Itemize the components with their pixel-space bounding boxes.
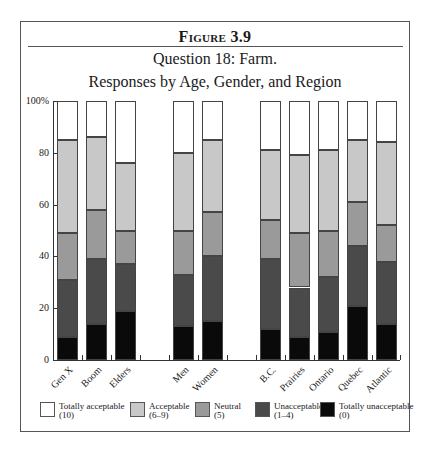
x-tick <box>314 355 315 360</box>
bar-segment <box>260 259 281 329</box>
bar-segment <box>376 101 397 142</box>
bar-segment <box>260 329 281 360</box>
legend-swatch <box>320 402 335 417</box>
bar-segment <box>57 101 78 140</box>
bar-segment <box>173 326 194 360</box>
x-tick <box>53 355 54 360</box>
bar-segment <box>202 101 223 140</box>
x-tick <box>343 355 344 360</box>
bar-segment <box>57 233 78 280</box>
legend-item: Acceptable(6–9) <box>130 402 189 420</box>
bar-b-c <box>260 101 281 360</box>
bar-segment <box>86 137 107 210</box>
legend-swatch <box>40 402 55 417</box>
y-axis <box>53 101 54 360</box>
bar-segment <box>115 163 136 230</box>
bar-segment <box>115 311 136 360</box>
x-tick <box>372 355 373 360</box>
x-tick <box>82 355 83 360</box>
bar-segment <box>173 101 194 153</box>
x-tick <box>227 355 228 360</box>
bar-women <box>202 101 223 360</box>
bar-segment <box>86 259 107 324</box>
bar-segment <box>289 155 310 233</box>
bar-gen-x <box>57 101 78 360</box>
bar-segment <box>289 101 310 155</box>
bar-elders <box>115 101 136 360</box>
bar-segment <box>260 220 281 259</box>
bar-segment <box>260 101 281 150</box>
y-tick-label: 80 <box>19 147 49 158</box>
bar-ontario <box>318 101 339 360</box>
legend-item: Unacceptable(1–4) <box>255 402 323 420</box>
x-tick <box>256 355 257 360</box>
bar-segment <box>318 231 339 278</box>
bar-segment <box>202 212 223 256</box>
bar-segment <box>173 231 194 275</box>
bar-segment <box>260 150 281 220</box>
bar-segment <box>376 324 397 360</box>
bar-segment <box>57 280 78 337</box>
bar-segment <box>173 153 194 231</box>
bar-segment <box>202 140 223 213</box>
y-tick-label: 40 <box>19 250 49 261</box>
bar-segment <box>86 101 107 137</box>
x-tick <box>140 355 141 360</box>
bar-segment <box>202 256 223 321</box>
legend-label: Unacceptable(1–4) <box>274 402 323 420</box>
legend-label: Neutral(5) <box>214 402 241 420</box>
bar-segment <box>86 210 107 259</box>
legend-label: Totally acceptable(10) <box>59 402 125 420</box>
bar-segment <box>347 246 368 306</box>
bar-quebec <box>347 101 368 360</box>
x-tick <box>198 355 199 360</box>
legend-swatch <box>255 402 270 417</box>
bar-segment <box>347 101 368 140</box>
y-tick-label: 0 <box>19 354 49 365</box>
bar-segment <box>57 337 78 360</box>
legend-label: Acceptable(6–9) <box>149 402 189 420</box>
bar-segment <box>376 225 397 261</box>
y-tick-label: 60 <box>19 199 49 210</box>
bar-boom <box>86 101 107 360</box>
bar-segment <box>289 233 310 287</box>
bar-segment <box>318 150 339 230</box>
bar-segment <box>318 277 339 331</box>
bar-segment <box>318 332 339 360</box>
y-tick-label: 20 <box>19 302 49 313</box>
bar-men <box>173 101 194 360</box>
legend-swatch <box>195 402 210 417</box>
y-tick-label: 100% <box>19 95 49 106</box>
bar-segment <box>115 101 136 163</box>
bar-segment <box>376 142 397 225</box>
bar-segment <box>376 262 397 324</box>
bar-segment <box>318 101 339 150</box>
legend-label: Totally unacceptable(0) <box>339 402 414 420</box>
plot-area: 020406080100%Gen XBoomEldersMenWomenB.C.… <box>0 0 430 453</box>
bar-segment <box>289 288 310 337</box>
bar-segment <box>173 275 194 327</box>
bar-segment <box>202 321 223 360</box>
bar-segment <box>347 140 368 202</box>
x-axis <box>53 360 400 361</box>
legend-item: Totally acceptable(10) <box>40 402 125 420</box>
bar-segment <box>57 140 78 233</box>
x-tick <box>285 355 286 360</box>
bar-segment <box>289 337 310 360</box>
bar-prairies <box>289 101 310 360</box>
legend-item: Totally unacceptable(0) <box>320 402 414 420</box>
legend-item: Neutral(5) <box>195 402 241 420</box>
x-tick <box>400 355 401 360</box>
bar-segment <box>347 202 368 246</box>
x-tick <box>111 355 112 360</box>
legend-swatch <box>130 402 145 417</box>
y-tick <box>53 360 57 361</box>
x-tick <box>169 355 170 360</box>
bar-segment <box>347 306 368 360</box>
bar-segment <box>115 231 136 265</box>
bar-atlantic <box>376 101 397 360</box>
bar-segment <box>115 264 136 311</box>
bar-segment <box>86 324 107 360</box>
